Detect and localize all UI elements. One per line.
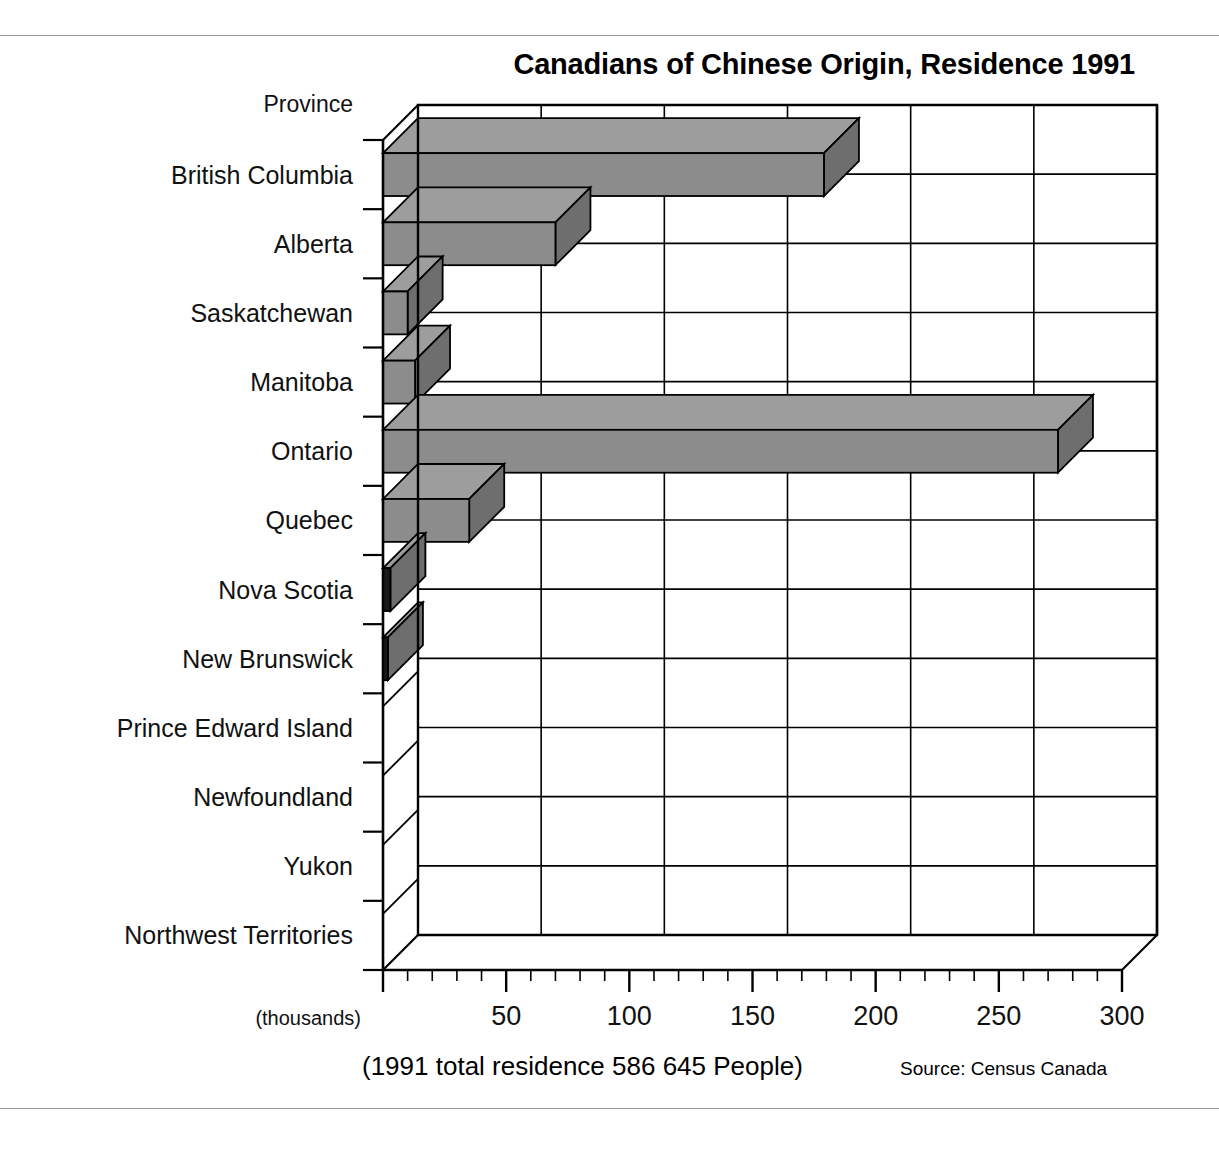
bar-top-face [383,395,1093,430]
bar-prince-edward-island [383,671,418,749]
bar-quebec [383,464,504,542]
x-axis-units-label: (thousands) [255,1007,361,1029]
bar-top-face [383,118,859,153]
x-tick-label-100: 100 [607,1001,652,1031]
category-labels-layer: British ColumbiaAlbertaSaskatchewanManit… [117,91,383,970]
bar-newfoundland [383,741,418,819]
chart-page: Canadians of Chinese Origin, Residence 1… [0,0,1219,1151]
bar-front-face [383,291,408,334]
x-tick-label-150: 150 [730,1001,775,1031]
x-tick-label-50: 50 [491,1001,521,1031]
category-label-newfoundland: Newfoundland [193,783,353,811]
bar-british-columbia [383,118,859,196]
bottom-right-depth-edge [1122,935,1157,970]
x-axis-numbers-layer: 50100150200250300(thousands) [255,1001,1144,1031]
category-label-ontario: Ontario [271,437,353,465]
bar-manitoba [383,326,450,404]
category-axis-header: Province [264,91,353,117]
bar-saskatchewan [383,256,443,334]
bar-top-face [383,741,418,776]
category-label-prince-edward-island: Prince Edward Island [117,714,353,742]
bar-yukon [383,810,418,888]
bar-northwest-territories [383,879,418,957]
category-label-new-brunswick: New Brunswick [182,645,353,673]
bar-top-face [383,879,418,914]
source-note: Source: Census Canada [900,1058,1107,1080]
bar-ontario [383,395,1093,473]
bar-top-face [383,187,590,222]
bar-alberta [383,187,590,265]
bottom-divider-rule [0,1108,1219,1109]
x-axis-ticks-layer [383,970,1122,992]
category-label-nova-scotia: Nova Scotia [218,576,353,604]
bar-front-face [383,361,415,404]
bottom-left-depth-edge [383,935,418,970]
category-label-alberta: Alberta [274,230,353,258]
bar-front-face [383,222,555,265]
category-label-quebec: Quebec [265,506,353,534]
x-tick-label-300: 300 [1099,1001,1144,1031]
bar-chart-plot: British ColumbiaAlbertaSaskatchewanManit… [0,0,1219,1151]
total-residence-note: (1991 total residence 586 645 People) [362,1051,803,1082]
category-label-manitoba: Manitoba [250,368,353,396]
category-label-northwest-territories: Northwest Territories [124,921,353,949]
category-label-yukon: Yukon [283,852,353,880]
x-tick-label-200: 200 [853,1001,898,1031]
category-label-saskatchewan: Saskatchewan [190,299,353,327]
category-label-british-columbia: British Columbia [171,161,353,189]
bar-top-face [383,810,418,845]
x-tick-label-250: 250 [976,1001,1021,1031]
